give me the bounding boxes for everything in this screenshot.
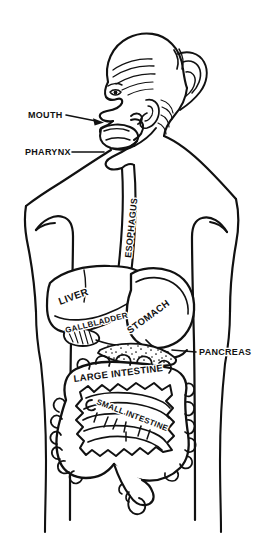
- label-pharynx-text: PHARYNX: [25, 147, 71, 157]
- anatomy-illustration: MOUTH MOUTH PHARYNX PHARYNX ESOPHAGUS ES…: [0, 0, 266, 542]
- label-mouth-text: MOUTH: [28, 110, 63, 120]
- digestive-system-figure: MOUTH MOUTH PHARYNX PHARYNX ESOPHAGUS ES…: [0, 0, 266, 542]
- label-pancreas-text: PANCREAS: [199, 347, 251, 357]
- small-intestine-organ: [76, 383, 174, 456]
- label-pharynx: PHARYNX PHARYNX: [25, 147, 71, 157]
- small-intestine-mass: [76, 383, 174, 456]
- label-pancreas: PANCREAS PANCREAS: [199, 347, 251, 357]
- label-mouth: MOUTH MOUTH: [28, 110, 63, 120]
